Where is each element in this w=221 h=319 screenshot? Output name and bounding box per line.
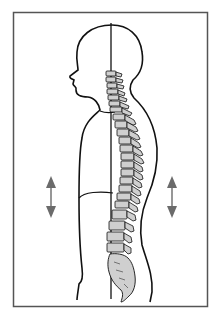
waist-line	[79, 192, 113, 198]
spine-diagram-svg	[0, 0, 221, 319]
vertebral-column	[106, 71, 144, 254]
body-front-outline	[70, 25, 112, 300]
spine-illustration	[0, 0, 221, 319]
right-double-arrow	[167, 176, 177, 218]
sacrum-coccyx	[108, 254, 135, 302]
left-double-arrow	[46, 176, 56, 218]
